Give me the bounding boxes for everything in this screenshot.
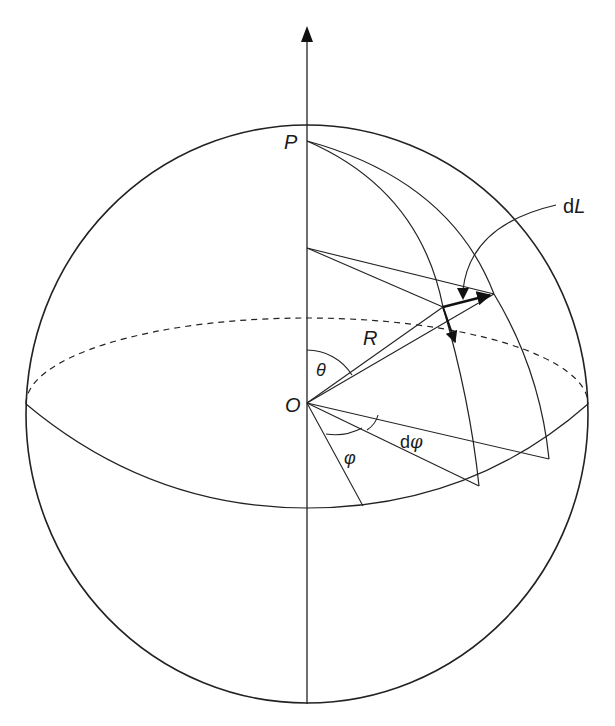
azimuth-line-2 [307,403,479,486]
sphere-diagram: P O R θ φ dφ dL [0,0,615,726]
label-phi: φ [344,448,356,468]
label-dL: dL [563,195,585,217]
theta-arc [307,350,352,375]
label-O: O [285,394,301,416]
dl-pointer-arrow-icon [457,288,469,300]
label-theta: θ [316,360,326,380]
axis-arrow-icon [301,26,313,42]
label-P: P [284,131,298,153]
latitude-line-1 [307,248,494,294]
radius-line-2 [307,294,494,403]
label-dphi: dφ [400,431,423,452]
phi-arc [326,428,362,435]
tangent-vector [443,307,455,342]
dl-pointer-curve [463,205,556,290]
z-axis [301,26,313,704]
label-R: R [363,327,377,349]
latitude-line-2 [307,248,443,307]
radius-line-1 [307,307,443,403]
